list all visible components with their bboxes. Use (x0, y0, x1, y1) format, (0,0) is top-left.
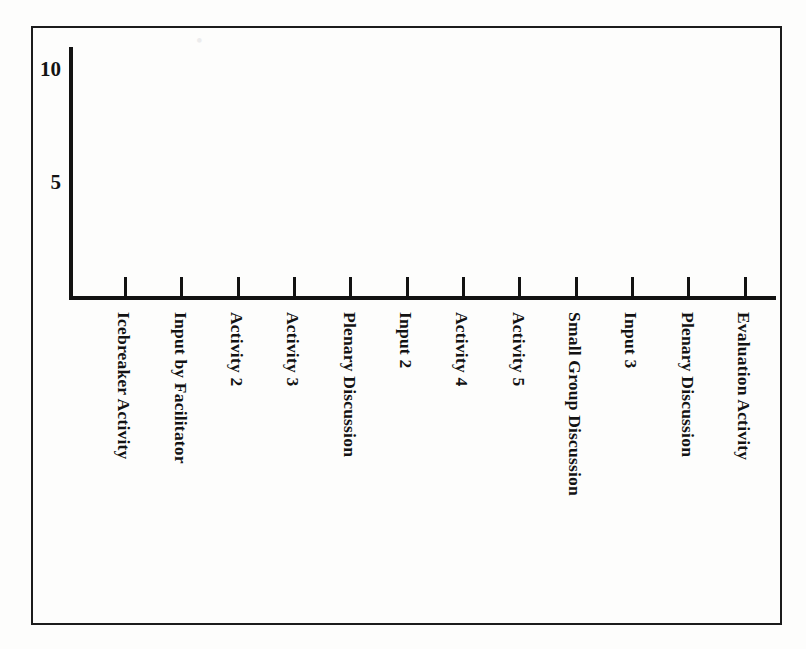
x-axis-category-label: Activity 4 (453, 312, 471, 386)
x-axis-category-label: Plenary Discussion (678, 312, 696, 457)
y-axis-tick-label: 5 (27, 172, 61, 193)
x-axis-category-label: Input by Facilitator (171, 312, 189, 464)
x-axis-category-label: Evaluation Activity (735, 312, 753, 460)
x-axis-category-label: Activity 3 (284, 312, 302, 386)
x-axis-category-label: Activity 5 (509, 312, 527, 386)
x-axis-category-label: Input 3 (622, 312, 640, 368)
x-axis-category-label: Plenary Discussion (340, 312, 358, 457)
x-axis-category-label: Activity 2 (228, 312, 246, 386)
x-axis-category-label: Small Group Discussion (566, 312, 584, 496)
figure-page: • 510 Icebreaker ActivityInput by Facili… (0, 0, 806, 649)
y-axis-tick-label: 10 (27, 59, 61, 80)
x-axis-category-label: Icebreaker Activity (115, 312, 133, 460)
x-axis-category-label: Input 2 (397, 312, 415, 368)
x-axis-line (69, 296, 776, 300)
bar-series (69, 47, 776, 296)
